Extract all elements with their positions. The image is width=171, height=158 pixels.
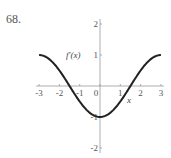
y-tick-label: -2 [91, 143, 99, 153]
x-axis-label: x [126, 95, 131, 105]
x-tick-label: -3 [35, 88, 43, 98]
x-tick-label: 1 [118, 88, 123, 98]
x-tick-label: -2 [56, 88, 64, 98]
x-tick-label: 0 [94, 88, 99, 98]
y-tick-label: 1 [94, 50, 99, 60]
derivative-graph: -3-2-10123-2-112 f′(x) x [0, 0, 171, 158]
x-tick-label: 3 [159, 88, 164, 98]
x-tick-label: 2 [138, 88, 143, 98]
y-axis-label: f′(x) [66, 50, 80, 60]
y-tick-label: 2 [94, 19, 99, 29]
